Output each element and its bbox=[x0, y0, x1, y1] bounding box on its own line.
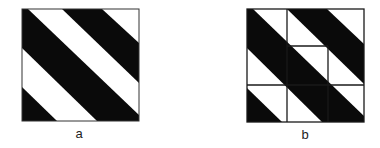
figure-a bbox=[22, 9, 139, 121]
figure-a-label: a bbox=[69, 126, 89, 141]
figure-canvas bbox=[0, 0, 380, 148]
figure-b bbox=[247, 9, 364, 122]
figure-b-label: b bbox=[295, 127, 315, 142]
